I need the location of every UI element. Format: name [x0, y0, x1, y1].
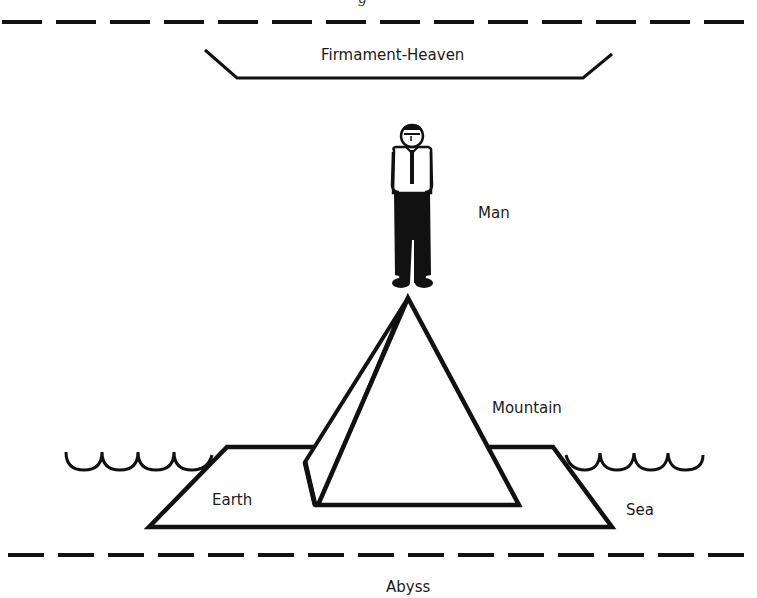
mountain-label: Mountain [492, 401, 562, 416]
earth-label: Earth [212, 493, 252, 508]
firmament-label: Firmament-Heaven [321, 48, 464, 63]
sea-waves-left [66, 452, 212, 470]
sea-label: Sea [626, 503, 654, 518]
abyss-label: Abyss [386, 580, 430, 595]
man-figure-icon [392, 124, 433, 288]
top-caption-partial: g [358, 0, 367, 5]
man-label: Man [478, 206, 510, 221]
mountain-pyramid [305, 298, 519, 505]
sea-waves-right [566, 453, 703, 470]
